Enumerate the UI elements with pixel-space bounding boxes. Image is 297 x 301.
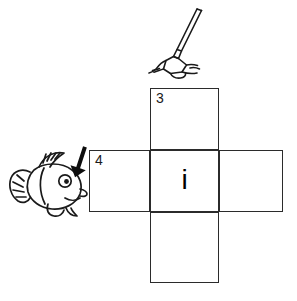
fish-with-fin-arrow-icon — [8, 142, 92, 222]
shovel-digging-icon — [146, 8, 208, 86]
grid-cell-top[interactable]: 3 — [150, 88, 219, 150]
worksheet-page: 3 4 i — [0, 0, 297, 301]
cell-number: 4 — [95, 153, 103, 167]
grid-cell-left[interactable]: 4 — [89, 150, 150, 212]
grid-cell-right[interactable] — [219, 150, 283, 212]
grid-cell-center[interactable]: i — [150, 150, 219, 212]
cell-letter: i — [151, 166, 218, 194]
grid-cell-bottom[interactable] — [150, 212, 219, 283]
cell-number: 3 — [156, 91, 164, 105]
